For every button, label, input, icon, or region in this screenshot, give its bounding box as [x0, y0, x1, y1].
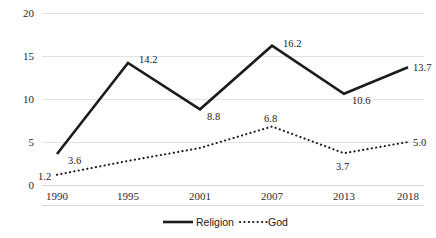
x-tick-2001: 2001 — [189, 190, 211, 202]
chart-legend: Religion God — [163, 216, 288, 228]
x-tick-2018: 2018 — [397, 190, 420, 202]
gridlines — [42, 13, 424, 205]
datalabel-god-2018: 5.0 — [413, 137, 426, 148]
datalabel-god-1990: 1.2 — [38, 171, 51, 182]
x-tick-1990: 1990 — [46, 190, 69, 202]
datalabel-religion-2013: 10.6 — [352, 95, 370, 106]
chart-canvas: 20 15 10 5 0 1990 1995 2001 2007 2013 20… — [0, 0, 436, 238]
datalabel-religion-1995: 14.2 — [139, 54, 157, 65]
data-labels-god: 1.2 6.8 3.7 5.0 — [38, 113, 426, 182]
x-axis-ticks: 1990 1995 2001 2007 2013 2018 — [46, 190, 420, 202]
y-tick-15: 15 — [23, 50, 35, 62]
legend-label-god: God — [268, 216, 288, 228]
datalabel-religion-2001: 8.8 — [207, 111, 220, 122]
datalabel-religion-1990: 3.6 — [68, 155, 81, 166]
series-line-god — [57, 127, 408, 175]
y-tick-10: 10 — [23, 93, 35, 105]
y-tick-20: 20 — [23, 7, 35, 19]
datalabel-religion-2018: 13.7 — [413, 62, 431, 73]
y-tick-5: 5 — [29, 136, 35, 148]
line-chart: 20 15 10 5 0 1990 1995 2001 2007 2013 20… — [0, 0, 436, 238]
y-tick-0: 0 — [29, 179, 35, 191]
y-axis-ticks: 20 15 10 5 0 — [23, 7, 35, 191]
legend-label-religion: Religion — [196, 216, 234, 228]
datalabel-religion-2007: 16.2 — [283, 38, 301, 49]
x-tick-2007: 2007 — [261, 190, 284, 202]
x-tick-1995: 1995 — [117, 190, 140, 202]
datalabel-god-2007: 6.8 — [264, 113, 277, 124]
x-tick-2013: 2013 — [333, 190, 356, 202]
datalabel-god-2013: 3.7 — [336, 161, 349, 172]
